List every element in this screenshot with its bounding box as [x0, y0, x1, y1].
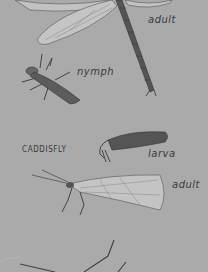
- caddisfly-adult-illustration: [32, 170, 164, 215]
- caddisfly-heading: CADDISFLY: [22, 145, 67, 154]
- dragonfly-nymph-illustration: [22, 54, 80, 104]
- caddisfly-adult-label: adult: [172, 179, 200, 190]
- insect-illustrations: [0, 0, 208, 272]
- dragonfly-nymph-label: nymph: [77, 66, 114, 77]
- field-guide-page: adult nymph CADDISFLY larva adult: [0, 0, 208, 272]
- caddisfly-larva-label: larva: [148, 148, 176, 159]
- partial-insect-illustration: [0, 240, 126, 272]
- dragonfly-adult-label: adult: [148, 14, 176, 25]
